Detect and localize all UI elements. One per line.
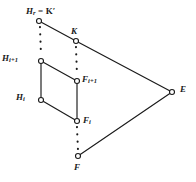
vertex-marker-e <box>170 90 175 95</box>
vertex-marker-f <box>76 154 81 159</box>
edge-fi-f <box>77 127 78 151</box>
figure-container: Hr = K′ K Hi+1 Fi+1 Hi Fi F E <box>0 0 196 182</box>
vertex-label-k: K <box>71 27 77 36</box>
edge-f-e <box>78 92 172 156</box>
vertex-label-fi1: Fi+1 <box>82 75 97 85</box>
vertex-marker-hr <box>37 19 42 24</box>
diagram-canvas <box>0 0 196 182</box>
vertex-marker-hi <box>39 98 44 103</box>
vertex-label-hi-sub: i <box>23 95 25 102</box>
edge-hr-hi1 <box>40 27 41 56</box>
vertex-label-f-main: F <box>74 162 80 172</box>
vertex-label-e: E <box>180 85 186 94</box>
vertex-label-hr: Hr = K′ <box>26 7 55 17</box>
vertex-label-f: F <box>74 163 80 172</box>
vertex-marker-fi1 <box>75 79 80 84</box>
edge-k-fi1 <box>76 47 77 76</box>
vertex-label-hi1-sub: i+1 <box>9 56 18 63</box>
vertex-label-k-main: K <box>71 26 77 36</box>
vertex-marker-k <box>74 39 79 44</box>
edge-hi1-fi1 <box>41 61 77 81</box>
vertex-label-fi: Fi <box>83 116 91 126</box>
edge-hi-fi <box>41 100 77 121</box>
vertex-marker-fi <box>75 119 80 124</box>
vertex-label-hi: Hi <box>16 93 25 103</box>
vertex-label-fi1-sub: i+1 <box>88 77 97 84</box>
vertex-label-hr-tail: = K′ <box>36 6 56 16</box>
vertex-label-fi-sub: i <box>89 118 91 125</box>
vertex-label-hi1: Hi+1 <box>2 54 18 64</box>
vertex-label-e-main: E <box>180 84 186 94</box>
vertex-marker-hi1 <box>39 59 44 64</box>
